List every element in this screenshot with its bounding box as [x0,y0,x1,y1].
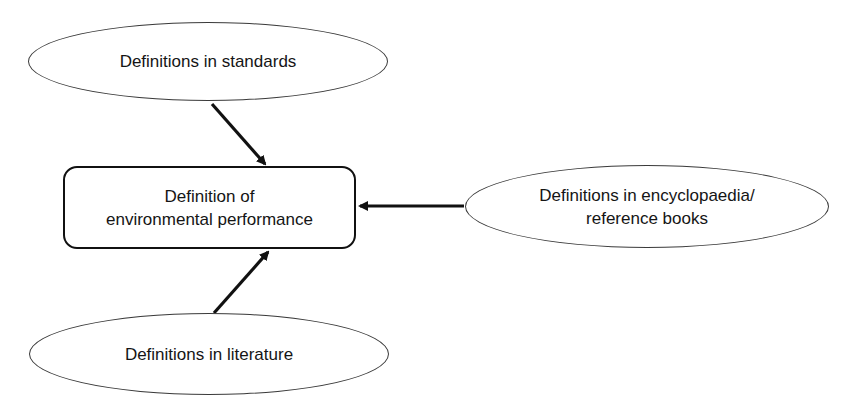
node-definition-of-environmental-performance: Definition of environmental performance [63,166,356,249]
arrow-literature-to-central [214,252,268,313]
node-label: Definitions in literature [125,343,293,366]
node-label: Definitions in encyclopaedia/ reference … [539,184,754,230]
arrow-standards-to-central [212,104,265,164]
node-label: Definition of environmental performance [106,185,313,231]
node-definitions-in-literature: Definitions in literature [29,313,389,395]
node-definitions-in-standards: Definitions in standards [28,22,388,101]
node-definitions-in-encyclopaedia: Definitions in encyclopaedia/ reference … [465,165,829,248]
node-label: Definitions in standards [120,50,297,73]
